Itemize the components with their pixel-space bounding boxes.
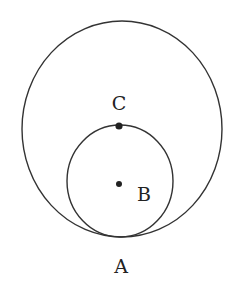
large-circle xyxy=(22,21,222,237)
small-circle xyxy=(67,125,173,237)
point-c-dot xyxy=(115,122,122,129)
label-b: B xyxy=(137,183,151,205)
label-c: C xyxy=(112,92,127,114)
tangent-circles-diagram: C B A xyxy=(0,0,233,286)
point-b-dot xyxy=(116,181,122,187)
label-a: A xyxy=(113,255,128,277)
